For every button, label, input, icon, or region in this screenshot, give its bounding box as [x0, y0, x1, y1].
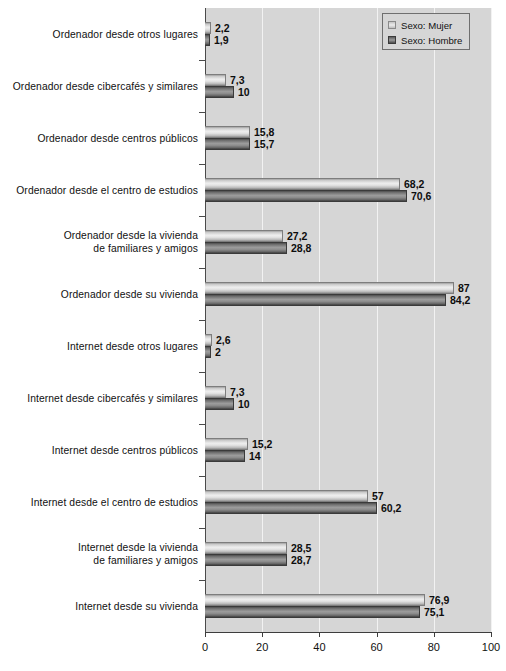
legend-label-mujer: Sexo: Mujer — [401, 20, 452, 31]
x-axis-tick-label: 40 — [313, 641, 325, 653]
x-axis-tick — [205, 632, 206, 637]
x-axis-tick — [262, 632, 263, 637]
x-axis-tick — [491, 632, 492, 637]
legend-label-hombre: Sexo: Hombre — [401, 35, 462, 46]
x-axis-tick-label: 60 — [370, 641, 382, 653]
x-axis-tick-label: 0 — [202, 641, 208, 653]
x-axis-tick-label: 100 — [482, 641, 500, 653]
x-axis-tick — [434, 632, 435, 637]
x-axis-ticks: 020406080100 — [0, 0, 506, 671]
legend-item-hombre: Sexo: Hombre — [388, 33, 464, 47]
bar-chart: Ordenador desde otros lugaresOrdenador d… — [0, 0, 506, 671]
x-axis-tick-label: 20 — [256, 641, 268, 653]
x-axis-tick — [377, 632, 378, 637]
x-axis-tick — [319, 632, 320, 637]
x-axis-tick-label: 80 — [428, 641, 440, 653]
legend-swatch-mujer-icon — [388, 21, 396, 29]
legend: Sexo: Mujer Sexo: Hombre — [382, 13, 470, 50]
legend-item-mujer: Sexo: Mujer — [388, 18, 464, 32]
legend-swatch-hombre-icon — [388, 36, 396, 44]
